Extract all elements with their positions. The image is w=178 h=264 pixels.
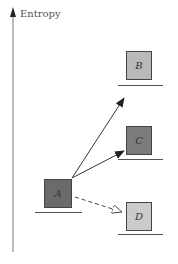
state-base-c (118, 159, 163, 160)
state-label-a: A (54, 188, 61, 199)
state-box-d: D (126, 202, 152, 231)
state-box-b: B (126, 51, 152, 80)
arrow-a-to-d-dashed (75, 197, 122, 212)
state-box-c: C (126, 126, 152, 155)
state-label-c: C (135, 135, 143, 146)
state-base-a (35, 212, 82, 213)
arrow-a-to-c (72, 151, 124, 178)
state-base-d (118, 234, 163, 235)
state-box-a: A (44, 179, 72, 208)
state-label-b: B (135, 60, 142, 71)
state-label-d: D (135, 211, 143, 222)
axis-label-entropy: Entropy (20, 8, 61, 19)
state-base-b (118, 85, 163, 86)
arrow-a-to-b (72, 98, 124, 178)
axis-arrowhead-icon (10, 7, 16, 17)
